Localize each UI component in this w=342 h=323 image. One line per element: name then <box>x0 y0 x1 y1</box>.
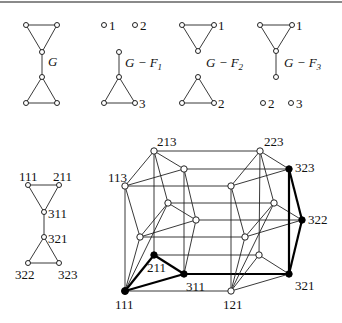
vertex-label-323: 323 <box>295 160 315 175</box>
vertex-label-2: 2 <box>268 96 275 111</box>
vertex-label-311: 311 <box>48 206 67 221</box>
vertex-label-2: 2 <box>140 18 147 33</box>
vertex-121 <box>228 288 234 294</box>
vertex-label-321: 321 <box>295 278 315 293</box>
vertex-label-223: 223 <box>264 134 284 149</box>
product-graph: 213 113 211 311 111 223 323 322 321 121 <box>108 134 328 312</box>
vertex-label-311: 311 <box>186 279 205 294</box>
vertex-label-211: 211 <box>53 169 72 184</box>
vertex-label-111: 111 <box>115 297 134 312</box>
vertex-211 <box>151 252 157 258</box>
vertex-label-1: 1 <box>109 18 116 33</box>
label-g-minus-f2: G − F2 <box>206 55 244 72</box>
vertex-label-121: 121 <box>223 297 243 312</box>
vertex-label-2: 2 <box>218 96 225 111</box>
vertex-223 <box>257 148 263 154</box>
vertex-323 <box>286 166 292 172</box>
vertex-111 <box>122 288 129 295</box>
vertex-label-3: 3 <box>139 96 146 111</box>
vertex-321 <box>286 271 292 277</box>
vertex-label-3: 3 <box>296 96 303 111</box>
vertex-label-1: 1 <box>218 18 225 33</box>
vertex-322 <box>299 217 305 223</box>
panel-g: G <box>24 23 60 106</box>
label-g: G <box>48 54 58 69</box>
vertex-label-321: 321 <box>48 231 68 246</box>
vertex-label-111: 111 <box>19 169 38 184</box>
vertex-label-211: 211 <box>147 260 166 275</box>
diagram-canvas: G 1 2 3 G − F1 1 2 G − F2 <box>0 0 342 323</box>
vertex-label-113: 113 <box>108 170 127 185</box>
label-g-minus-f1: G − F1 <box>125 55 162 72</box>
vertex-label-323: 323 <box>58 267 78 282</box>
panel-g-minus-f2: 1 2 G − F2 <box>180 18 244 111</box>
vertex-label-1: 1 <box>296 18 303 33</box>
label-g-minus-f3: G − F3 <box>284 55 322 72</box>
vertex-label-322: 322 <box>308 212 328 227</box>
panel-g-minus-f3: 1 2 3 G − F3 <box>258 18 322 111</box>
vertex-311 <box>181 271 187 277</box>
small-graph: 111 211 311 321 322 323 <box>15 169 78 282</box>
vertex-label-213: 213 <box>157 134 177 149</box>
vertex-label-322: 322 <box>15 267 35 282</box>
panel-g-minus-f1: 1 2 3 G − F1 <box>102 18 163 111</box>
